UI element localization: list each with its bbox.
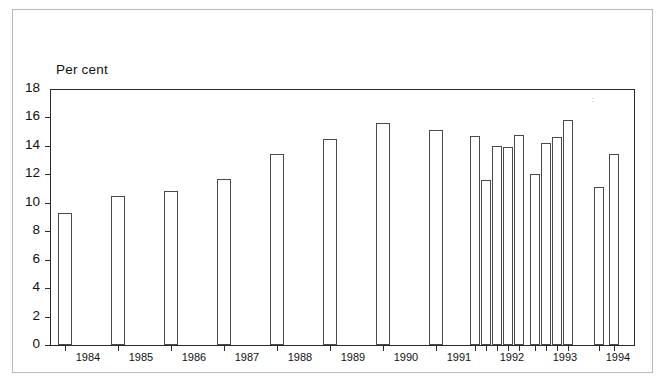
bar bbox=[541, 143, 551, 345]
y-tick-label: 4 bbox=[14, 279, 40, 294]
x-tick-mark bbox=[436, 346, 437, 351]
bar bbox=[594, 187, 604, 345]
x-tick-label: 1994 bbox=[588, 351, 648, 363]
y-tick-label: 18 bbox=[14, 80, 40, 95]
bar bbox=[270, 154, 284, 345]
y-axis-unit-label: Per cent bbox=[56, 62, 108, 77]
stray-mark: : bbox=[592, 96, 594, 103]
x-tick-mark bbox=[486, 346, 487, 351]
y-tick-label: 16 bbox=[14, 108, 40, 123]
x-tick-mark bbox=[475, 346, 476, 351]
bar bbox=[323, 139, 337, 345]
x-tick-mark bbox=[519, 346, 520, 351]
x-tick-mark bbox=[497, 346, 498, 351]
bar bbox=[58, 213, 72, 345]
x-tick-mark bbox=[568, 346, 569, 351]
y-tick-mark bbox=[45, 203, 51, 204]
x-tick-label: 1991 bbox=[429, 351, 489, 363]
x-tick-mark bbox=[277, 346, 278, 351]
y-tick-label: 2 bbox=[14, 308, 40, 323]
bar bbox=[609, 154, 619, 345]
x-tick-label: 1992 bbox=[482, 351, 542, 363]
x-tick-mark bbox=[508, 346, 509, 351]
bar bbox=[492, 146, 502, 345]
y-tick-label: 8 bbox=[14, 222, 40, 237]
x-tick-mark bbox=[535, 346, 536, 351]
bar bbox=[481, 180, 491, 345]
y-tick-mark bbox=[45, 260, 51, 261]
bar bbox=[111, 196, 125, 345]
x-axis-baseline bbox=[50, 345, 635, 346]
bar bbox=[164, 191, 178, 345]
bar bbox=[429, 130, 443, 345]
y-tick-mark bbox=[45, 146, 51, 147]
y-tick-mark bbox=[45, 288, 51, 289]
y-tick-label: 12 bbox=[14, 165, 40, 180]
y-tick-mark bbox=[45, 317, 51, 318]
x-tick-label: 1984 bbox=[58, 351, 118, 363]
x-tick-mark bbox=[614, 346, 615, 351]
x-tick-mark bbox=[224, 346, 225, 351]
y-axis-line bbox=[50, 89, 51, 346]
x-tick-mark bbox=[118, 346, 119, 351]
plot-top-rule bbox=[50, 89, 635, 90]
y-tick-label: 10 bbox=[14, 194, 40, 209]
y-tick-label: 0 bbox=[14, 336, 40, 351]
bar bbox=[552, 137, 562, 345]
y-tick-mark bbox=[45, 174, 51, 175]
bar-chart: Per cent : 024681012141618 1984198519861… bbox=[0, 0, 667, 389]
x-tick-mark bbox=[65, 346, 66, 351]
x-tick-label: 1986 bbox=[164, 351, 224, 363]
x-tick-mark bbox=[330, 346, 331, 351]
bar bbox=[470, 136, 480, 345]
bar bbox=[530, 174, 540, 345]
bar bbox=[514, 135, 524, 345]
x-tick-mark bbox=[546, 346, 547, 351]
x-tick-mark bbox=[599, 346, 600, 351]
x-tick-label: 1993 bbox=[535, 351, 595, 363]
bar bbox=[376, 123, 390, 345]
x-tick-label: 1985 bbox=[111, 351, 171, 363]
x-tick-label: 1989 bbox=[323, 351, 383, 363]
x-tick-label: 1988 bbox=[270, 351, 330, 363]
y-tick-mark bbox=[45, 117, 51, 118]
x-tick-mark bbox=[383, 346, 384, 351]
x-tick-mark bbox=[171, 346, 172, 351]
bar bbox=[503, 147, 513, 345]
bar bbox=[217, 179, 231, 345]
x-tick-label: 1987 bbox=[217, 351, 277, 363]
y-tick-label: 14 bbox=[14, 137, 40, 152]
bar bbox=[563, 120, 573, 345]
y-tick-mark bbox=[45, 231, 51, 232]
y-tick-mark bbox=[45, 345, 51, 346]
y-tick-label: 6 bbox=[14, 251, 40, 266]
x-tick-mark bbox=[557, 346, 558, 351]
x-tick-label: 1990 bbox=[376, 351, 436, 363]
plot-right-rule bbox=[634, 89, 635, 346]
